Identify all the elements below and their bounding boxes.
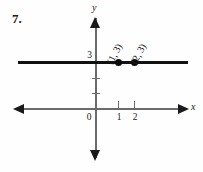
problem-number: 7. [12, 11, 22, 27]
x-axis-line [22, 108, 180, 110]
function-line-y-equals-3 [18, 61, 188, 64]
y-tick-1 [92, 93, 100, 94]
y-tick-label-3: 3 [78, 50, 92, 60]
x-tick-1 [118, 101, 119, 109]
y-axis-label: y [92, 2, 96, 13]
y-axis-arrow-down-icon [90, 150, 100, 161]
y-axis-arrow-up-icon [90, 17, 100, 28]
x-axis-arrow-right-icon [178, 104, 189, 114]
y-axis-line [95, 18, 97, 158]
graph-figure: 7. y x 0 1 2 3 (1, 3) (2, 3) [0, 0, 203, 172]
x-tick-2 [134, 101, 135, 109]
y-tick-2 [92, 78, 100, 79]
x-axis-arrow-left-icon [13, 104, 24, 114]
origin-tick-label: 0 [82, 112, 96, 122]
x-axis-label: x [191, 101, 195, 112]
x-tick-label-1: 1 [112, 112, 126, 122]
x-tick-label-2: 2 [128, 112, 142, 122]
